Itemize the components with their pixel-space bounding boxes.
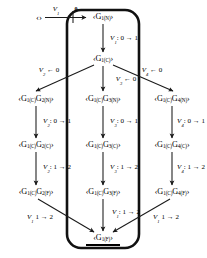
- edge-label-b-to-final: V1: 1 → 2: [112, 209, 140, 218]
- edge-label-n1-n2: V1: 0 → 1: [110, 35, 138, 44]
- zero-marker: 0: [75, 6, 78, 12]
- edge-label-branch-mid: V3 ← 0: [116, 76, 137, 85]
- node-g1c-g4f: ‹G1(C)G4(F)›: [155, 188, 189, 196]
- node-g1c: ‹G1(C)›: [93, 55, 113, 63]
- edge-label-branch-left: V2 ← 0: [39, 67, 60, 76]
- node-g1c-g4c: ‹G1(C)G4(C)›: [154, 141, 189, 149]
- edge-label-a-row3-row4: V2: 0 → 1: [43, 118, 71, 127]
- edge-label-branch-right: V4 ← 0: [142, 67, 163, 76]
- edge-label-start: V1: [53, 6, 60, 15]
- node-g1n: ‹G1(N)›: [93, 13, 113, 21]
- edge-label-b-row4-row5: V3: 1 → 2: [110, 164, 138, 173]
- node-g1c-g2n: ‹G1(C)G2(N)›: [18, 95, 53, 103]
- edge-label-c-row4-row5: V4: 1 → 2: [177, 164, 205, 173]
- edge-label-a-to-final: V1 1 → 2: [27, 214, 53, 223]
- node-g1f-final: ‹G1(F)›: [93, 234, 113, 242]
- node-g1c-g3n: ‹G1(C)G3(N)›: [85, 95, 120, 103]
- edge-label-a-row4-row5: V2: 1 → 2: [43, 164, 71, 173]
- node-g1c-g4n: ‹G1(C)G4(N)›: [154, 95, 189, 103]
- diagram-canvas: ‹› 0 ‹G1(N)› ‹G1(C)› ‹G1(C)G2(N)› ‹G1(C)…: [0, 0, 207, 258]
- edge-label-b-row3-row4: V3: 0 → 1: [110, 118, 138, 127]
- edge-label-c-row3-row4: V4: 0 → 1: [177, 118, 205, 127]
- start-state-empty: ‹›: [36, 12, 42, 22]
- node-g1c-g2f: ‹G1(C)G2(F)›: [19, 188, 53, 196]
- node-g1c-g3c: ‹G1(C)G3(C)›: [85, 141, 120, 149]
- edge-label-c-to-final: V1 1 → 2: [153, 214, 179, 223]
- node-g1c-g3f: ‹G1(C)G3(F)›: [86, 188, 120, 196]
- node-g1c-g2c: ‹G1(C)G2(C)›: [18, 141, 53, 149]
- final-node-underline: [86, 244, 120, 246]
